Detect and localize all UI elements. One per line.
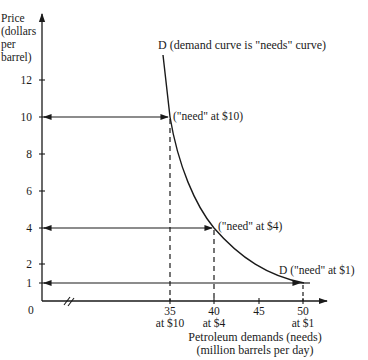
y-tick-1: 1: [10, 277, 32, 290]
x-tick-40-value: 40: [189, 305, 239, 317]
x-tick-50-sub: at $1: [278, 317, 328, 329]
y-tick-6: 6: [10, 185, 32, 198]
y-tick-4: 4: [10, 222, 32, 235]
y-tick-10: 10: [10, 111, 32, 124]
x-tick-40-sub: at $4: [189, 317, 239, 329]
x-tick-35: 35 at $10: [145, 305, 195, 329]
x-axis-title: Petroleum demands (needs) (million barre…: [180, 331, 330, 357]
origin-label: 0: [28, 304, 34, 317]
y-tick-8: 8: [10, 148, 32, 161]
need-at-4-label: ("need" at $4): [218, 220, 282, 233]
need-at-1-label: D ("need" at $1): [279, 264, 355, 277]
x-tick-50: 50 at $1: [278, 305, 328, 329]
curve-label: D (demand curve is "needs" curve): [158, 39, 326, 52]
x-axis-title-line2: (million barrels per day): [180, 344, 330, 357]
y-tick-2: 2: [10, 258, 32, 271]
x-tick-50-value: 50: [278, 305, 328, 317]
x-tick-35-value: 35: [145, 305, 195, 317]
need-at-10-label: ("need" at $10): [173, 110, 243, 123]
x-tick-45: 45: [234, 305, 284, 317]
y-tick-12: 12: [10, 74, 32, 87]
x-tick-45-value: 45: [234, 305, 284, 317]
demand-curve: [163, 55, 304, 283]
x-tick-35-sub: at $10: [145, 317, 195, 329]
x-tick-40: 40 at $4: [189, 305, 239, 329]
y-axis-title: Price (dollars per barrel): [1, 12, 47, 64]
